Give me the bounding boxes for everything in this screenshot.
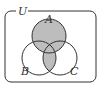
set-a-label: A [44, 13, 53, 26]
set-b-label: B [20, 65, 29, 78]
venn-diagram: U A B C [0, 0, 103, 90]
universe-label: U [18, 5, 28, 18]
set-c-label: C [70, 65, 79, 78]
